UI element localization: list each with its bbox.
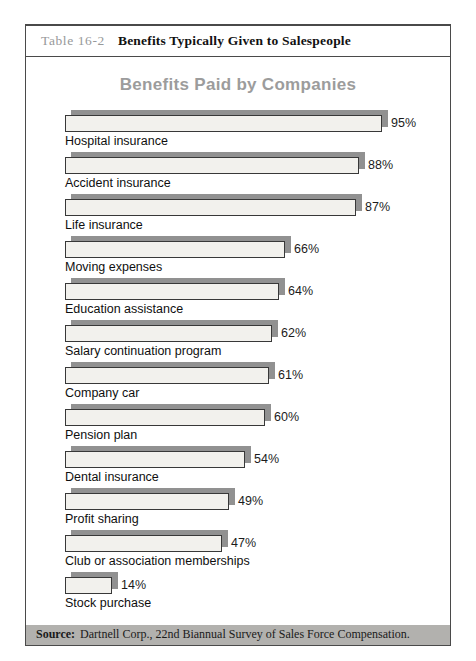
- bar-category-label: Profit sharing: [65, 512, 450, 526]
- bar: [65, 367, 269, 384]
- table-number-label: Table 16-2: [41, 33, 105, 49]
- bar: [65, 199, 356, 216]
- bar-category-label: Stock purchase: [65, 596, 450, 610]
- bar-line: 87%: [65, 194, 450, 216]
- bar-chart: 95%Hospital insurance88%Accident insuran…: [26, 110, 450, 610]
- bar-category-label: Company car: [65, 386, 450, 400]
- bar-category-label: Salary continuation program: [65, 344, 450, 358]
- bar-row: 66%Moving expenses: [65, 236, 450, 274]
- bar: [65, 535, 222, 552]
- bar-line: 64%: [65, 278, 450, 300]
- bar-wrap: [65, 115, 382, 132]
- bar-wrap: [65, 325, 272, 342]
- bar-value-label: 49%: [238, 493, 263, 510]
- bar-row: 54%Dental insurance: [65, 446, 450, 484]
- bar: [65, 493, 229, 510]
- table-frame: Table 16-2 Benefits Typically Given to S…: [25, 24, 451, 646]
- bar: [65, 577, 112, 594]
- bar-row: 61%Company car: [65, 362, 450, 400]
- bar-row: 88%Accident insurance: [65, 152, 450, 190]
- bar-row: 60%Pension plan: [65, 404, 450, 442]
- bar-row: 95%Hospital insurance: [65, 110, 450, 148]
- bar-value-label: 64%: [288, 283, 313, 300]
- bar: [65, 241, 285, 258]
- bar-value-label: 62%: [281, 325, 306, 342]
- bar-line: 88%: [65, 152, 450, 174]
- bar-value-label: 88%: [368, 157, 393, 174]
- bar-row: 87%Life insurance: [65, 194, 450, 232]
- bar-wrap: [65, 451, 245, 468]
- bar: [65, 115, 382, 132]
- bar-category-label: Education assistance: [65, 302, 450, 316]
- bar-value-label: 47%: [231, 535, 256, 552]
- source-band: Source:Dartnell Corp., 22nd Biannual Sur…: [26, 625, 450, 645]
- bar-line: 62%: [65, 320, 450, 342]
- bar-value-label: 66%: [294, 241, 319, 258]
- bar-value-label: 61%: [278, 367, 303, 384]
- source-text: Dartnell Corp., 22nd Biannual Survey of …: [80, 627, 410, 641]
- bar: [65, 325, 272, 342]
- bar-row: 64%Education assistance: [65, 278, 450, 316]
- bar-category-label: Life insurance: [65, 218, 450, 232]
- bar-value-label: 54%: [254, 451, 279, 468]
- bar-row: 14%Stock purchase: [65, 572, 450, 610]
- bar-wrap: [65, 241, 285, 258]
- bar-value-label: 87%: [365, 199, 390, 216]
- bar-category-label: Hospital insurance: [65, 134, 450, 148]
- bar-wrap: [65, 535, 222, 552]
- bar-wrap: [65, 157, 359, 174]
- bar-line: 49%: [65, 488, 450, 510]
- bar-line: 54%: [65, 446, 450, 468]
- bar: [65, 451, 245, 468]
- bar-value-label: 95%: [391, 115, 416, 132]
- bar: [65, 283, 279, 300]
- bar: [65, 157, 359, 174]
- bar-line: 61%: [65, 362, 450, 384]
- bar-row: 62%Salary continuation program: [65, 320, 450, 358]
- bar-category-label: Pension plan: [65, 428, 450, 442]
- bar-value-label: 14%: [121, 577, 146, 594]
- bar-category-label: Dental insurance: [65, 470, 450, 484]
- bar-category-label: Moving expenses: [65, 260, 450, 274]
- bar-line: 66%: [65, 236, 450, 258]
- bar-category-label: Club or association memberships: [65, 554, 450, 568]
- bar-line: 47%: [65, 530, 450, 552]
- bar-wrap: [65, 493, 229, 510]
- bar-line: 60%: [65, 404, 450, 426]
- bar-wrap: [65, 577, 112, 594]
- bar-value-label: 60%: [274, 409, 299, 426]
- bar-wrap: [65, 409, 265, 426]
- bar-wrap: [65, 199, 356, 216]
- table-title: Benefits Typically Given to Salespeople: [118, 33, 351, 49]
- bar-row: 47%Club or association memberships: [65, 530, 450, 568]
- bar-line: 14%: [65, 572, 450, 594]
- bar-wrap: [65, 367, 269, 384]
- bar-category-label: Accident insurance: [65, 176, 450, 190]
- chart-title: Benefits Paid by Companies: [26, 75, 450, 95]
- bar-wrap: [65, 283, 279, 300]
- bar: [65, 409, 265, 426]
- bar-row: 49%Profit sharing: [65, 488, 450, 526]
- table-header: Table 16-2 Benefits Typically Given to S…: [26, 26, 450, 57]
- bar-line: 95%: [65, 110, 450, 132]
- source-label: Source:: [36, 627, 75, 641]
